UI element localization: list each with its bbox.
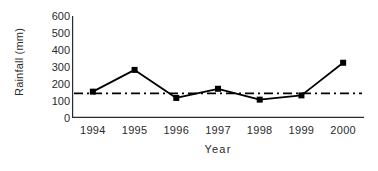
x-tick-label: 1994	[71, 124, 115, 137]
axis-spine	[73, 16, 365, 118]
y-tick-label: 400	[32, 45, 70, 56]
x-tick-label: 1999	[279, 124, 323, 137]
data-point-marker	[340, 60, 346, 66]
y-tick-label: 500	[32, 28, 70, 39]
y-axis-tick-labels: 0100200300400500600	[32, 10, 70, 123]
data-point-marker	[132, 67, 138, 73]
plot-area	[72, 16, 364, 118]
y-tick-label: 100	[32, 96, 70, 107]
y-axis-title: Rainfall (mm)	[13, 7, 25, 117]
x-tick-label: 1998	[238, 124, 282, 137]
y-tick-label: 0	[32, 113, 70, 124]
plot-svg	[72, 16, 364, 118]
data-point-marker	[298, 92, 304, 98]
data-point-marker	[257, 97, 263, 103]
x-axis-title: Year	[72, 143, 364, 155]
y-tick-label: 300	[32, 62, 70, 73]
data-point-marker	[173, 95, 179, 101]
x-tick-label: 1996	[154, 124, 198, 137]
x-tick-label: 1995	[113, 124, 157, 137]
x-tick-label: 2000	[321, 124, 365, 137]
y-tick-label: 200	[32, 79, 70, 90]
rainfall-line-chart: Rainfall (mm) 0100200300400500600 199419…	[0, 0, 378, 171]
x-axis-tick-labels: 1994199519961997199819992000	[72, 124, 364, 140]
y-tick-label: 600	[32, 11, 70, 22]
x-tick-label: 1997	[196, 124, 240, 137]
data-point-marker	[90, 89, 96, 95]
data-point-marker	[215, 86, 221, 92]
